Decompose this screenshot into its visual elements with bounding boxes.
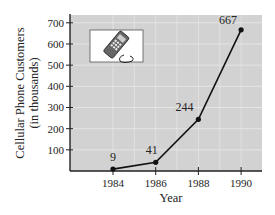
- plot-area: 1002003004005006007001984198619881990941…: [13, 13, 262, 205]
- x-axis-title: Year: [159, 191, 183, 205]
- x-tick-label: 1986: [145, 177, 168, 189]
- line-chart: 1002003004005006007001984198619881990941…: [0, 0, 275, 215]
- x-tick-label: 1984: [102, 177, 125, 189]
- y-tick-label: 700: [48, 17, 65, 29]
- y-tick-label: 100: [48, 144, 65, 156]
- y-tick-label: 300: [48, 101, 65, 113]
- y-tick-label: 500: [48, 59, 65, 71]
- data-point: [153, 160, 158, 165]
- data-point: [239, 27, 244, 32]
- data-label: 667: [219, 13, 237, 27]
- data-label: 244: [175, 100, 193, 114]
- data-label: 41: [146, 143, 158, 157]
- data-label: 9: [110, 150, 116, 164]
- y-tick-label: 600: [48, 38, 65, 50]
- y-tick-label: 200: [48, 123, 65, 135]
- x-tick-label: 1990: [230, 177, 253, 189]
- data-point: [196, 117, 201, 122]
- x-tick-label: 1988: [187, 177, 210, 189]
- y-axis-subtitle: (in thousands): [27, 57, 41, 128]
- y-tick-label: 400: [48, 80, 65, 92]
- y-axis-title: Cellular Phone Customers: [13, 27, 27, 158]
- data-point: [110, 166, 115, 171]
